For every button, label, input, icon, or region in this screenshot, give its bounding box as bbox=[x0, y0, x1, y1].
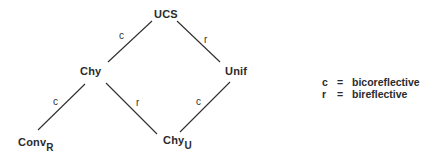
node-unif: Unif bbox=[225, 65, 247, 77]
legend: c = bicoreflective r = bireflective bbox=[322, 76, 420, 100]
node-conv-r: ConvR bbox=[18, 136, 54, 153]
node-unif-label: Unif bbox=[225, 65, 247, 77]
edge-unif-chyu bbox=[180, 82, 230, 132]
edge-label-ucs-chy: c bbox=[119, 30, 124, 41]
legend-row-r: r = bireflective bbox=[322, 88, 420, 100]
edge-label-ucs-unif: r bbox=[204, 34, 207, 45]
edge-chy-chyu bbox=[106, 83, 157, 134]
node-chy-u: ChyU bbox=[163, 134, 192, 151]
legend-equals: = bbox=[332, 88, 348, 100]
edge-chy-conv bbox=[38, 84, 85, 130]
edge-ucs-chy bbox=[108, 21, 152, 62]
legend-equals: = bbox=[332, 76, 348, 88]
legend-symbol: r bbox=[322, 88, 332, 100]
node-ucs-label: UCS bbox=[154, 8, 178, 20]
node-chyu-label: Chy bbox=[163, 134, 184, 146]
legend-symbol: c bbox=[322, 76, 332, 88]
edge-label-chy-conv: c bbox=[53, 96, 58, 107]
node-conv-subscript: R bbox=[46, 142, 53, 153]
edge-label-unif-chyu: c bbox=[196, 96, 201, 107]
legend-row-c: c = bicoreflective bbox=[322, 76, 420, 88]
legend-meaning: bicoreflective bbox=[352, 76, 420, 88]
node-chy: Chy bbox=[80, 65, 101, 77]
node-conv-label: Conv bbox=[18, 136, 46, 148]
node-ucs: UCS bbox=[154, 8, 178, 20]
node-chy-label: Chy bbox=[80, 65, 101, 77]
legend-meaning: bireflective bbox=[352, 88, 407, 100]
edge-ucs-unif bbox=[177, 21, 220, 62]
node-chyu-subscript: U bbox=[184, 140, 191, 151]
edge-label-chy-chyu: r bbox=[136, 97, 139, 108]
